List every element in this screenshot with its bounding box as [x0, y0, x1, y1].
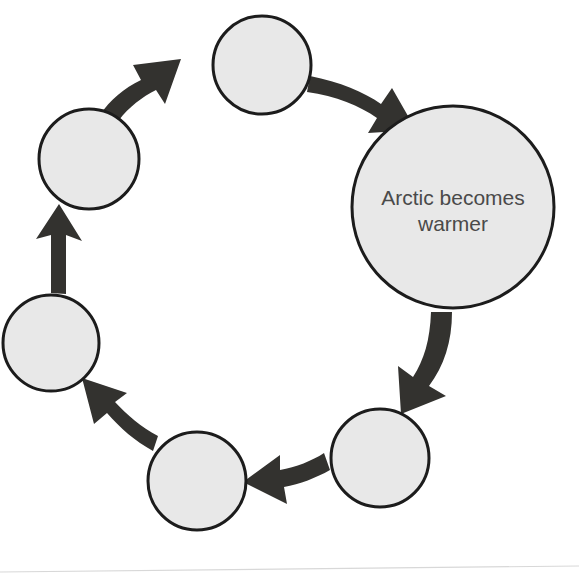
- node-blank-1[interactable]: [331, 409, 429, 507]
- node-blank-5[interactable]: [213, 16, 311, 114]
- node-arctic-warmer-label-line1: Arctic becomes: [381, 186, 525, 209]
- node-blank-3[interactable]: [3, 295, 99, 391]
- arrow-arctic-to-br: [398, 312, 452, 414]
- node-blank-2-shape[interactable]: [148, 432, 246, 530]
- node-blank-4-shape[interactable]: [39, 109, 139, 209]
- node-blank-3-shape[interactable]: [3, 295, 99, 391]
- cycle-diagram-canvas: Arctic becomes warmer: [0, 0, 579, 583]
- cycle-diagram: Arctic becomes warmer: [0, 0, 579, 583]
- arrow-br-to-bl: [243, 453, 330, 504]
- node-arctic-warmer-label-line2: warmer: [417, 212, 488, 235]
- node-blank-1-shape[interactable]: [331, 409, 429, 507]
- arrow-topleft-to-top: [100, 59, 181, 120]
- node-blank-4[interactable]: [39, 109, 139, 209]
- arrow-left-to-topleft: [36, 204, 82, 294]
- node-arctic-warmer[interactable]: Arctic becomes warmer: [352, 106, 554, 308]
- arrow-bl-to-left: [82, 378, 158, 451]
- node-blank-2[interactable]: [148, 432, 246, 530]
- node-blank-5-shape[interactable]: [213, 16, 311, 114]
- page-rule-line: [0, 566, 579, 572]
